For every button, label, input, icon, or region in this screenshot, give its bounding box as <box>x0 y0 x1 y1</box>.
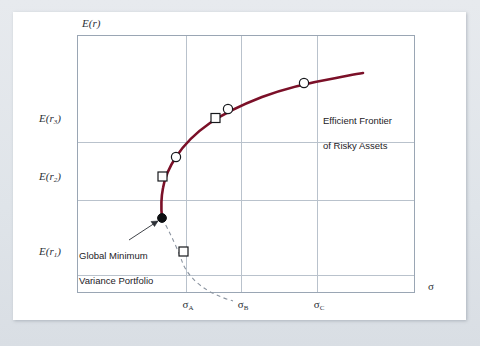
inefficient-frontier-dashed-line <box>162 218 233 301</box>
efficient-frontier-annotation-line1: Efficient Frontier <box>323 115 392 128</box>
efficient-frontier-chart: E(r) σ E(r3) E(r2) E(r1) σA σB σC <box>13 12 466 320</box>
gmv-annotation-line1: Global Minimum <box>79 250 153 263</box>
efficient-frontier-annotation: Efficient Frontier of Risky Assets <box>323 102 392 165</box>
marker-open-circle-portfolio-2 <box>223 104 232 113</box>
marker-open-square-portfolio-1 <box>158 172 167 181</box>
gmv-annotation-line2: Variance Portfolio <box>79 275 153 288</box>
gmv-annotation-arrow-head <box>151 221 158 227</box>
gmv-annotation: Global Minimum Variance Portfolio <box>79 237 153 300</box>
marker-open-square-inefficient <box>179 247 188 256</box>
marker-open-square-portfolio-2 <box>211 114 220 123</box>
marker-open-circle-portfolio-3 <box>299 78 308 87</box>
figure-card: E(r) σ E(r3) E(r2) E(r1) σA σB σC <box>13 12 466 320</box>
page-background: E(r) σ E(r3) E(r2) E(r1) σA σB σC <box>0 0 480 346</box>
marker-open-circle-portfolio-1 <box>171 152 180 161</box>
efficient-frontier-annotation-line2: of Risky Assets <box>323 140 392 153</box>
marker-global-minimum-variance-portfolio <box>158 214 167 223</box>
